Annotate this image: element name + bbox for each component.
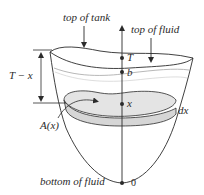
tank-diagram: top of tank top of fluid T b x dx T − x …	[0, 0, 204, 195]
label-top-of-fluid: top of fluid	[131, 24, 179, 35]
label-T-minus-x: T − x	[9, 70, 33, 81]
label-top-of-tank: top of tank	[63, 12, 110, 23]
label-dx: dx	[178, 105, 188, 116]
label-x: x	[127, 98, 132, 109]
point-zero	[120, 181, 124, 185]
point-x	[120, 102, 124, 106]
label-A-of-x: A(x)	[40, 120, 59, 131]
label-bottom-of-fluid: bottom of fluid	[40, 176, 105, 187]
point-b	[120, 70, 124, 74]
label-T: T	[127, 52, 133, 63]
point-T	[120, 56, 124, 60]
label-b: b	[127, 67, 133, 78]
label-zero: 0	[131, 178, 136, 188]
